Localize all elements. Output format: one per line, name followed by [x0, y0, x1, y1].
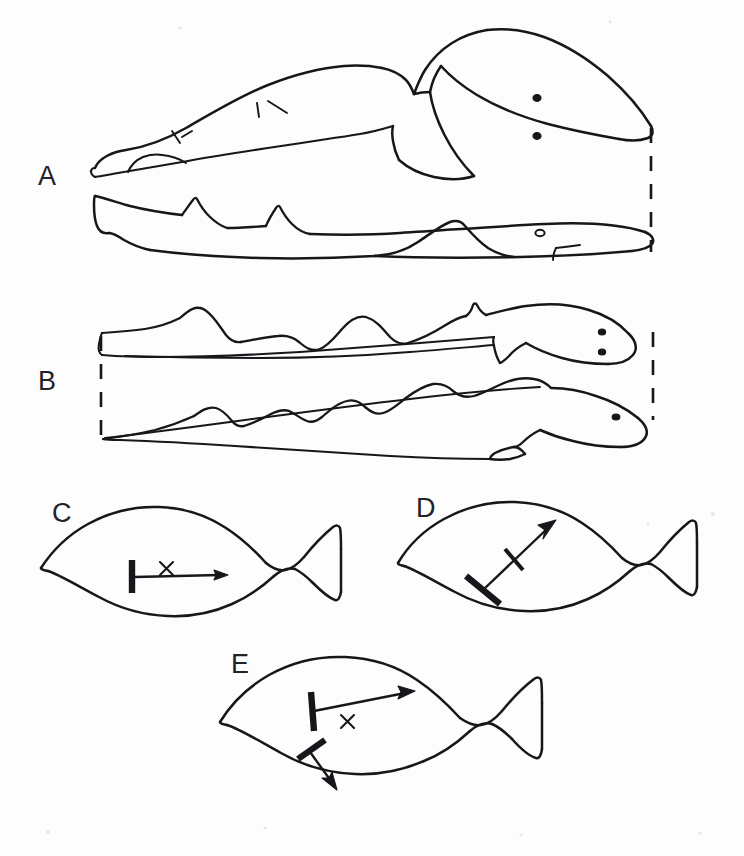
force-vector-horizontal: [135, 570, 228, 580]
fish-body-e: [220, 657, 542, 774]
shark-upper: [91, 29, 653, 179]
fish-lower-b: [103, 378, 647, 460]
panel-b: B: [38, 304, 653, 460]
fish-body-c: [41, 507, 341, 616]
panel-d: D: [398, 493, 697, 611]
panel-label-b: B: [38, 366, 57, 396]
fish-body-d: [398, 502, 697, 611]
shark-upper-spot-2: [533, 133, 541, 140]
center-of-mass-marker: [341, 715, 354, 728]
figure-canvas: A: [0, 0, 744, 856]
panel-a: A: [38, 29, 653, 260]
shark-upper-spot-1: [533, 95, 541, 102]
panel-label-c: C: [52, 498, 72, 528]
panel-label-a: A: [38, 161, 57, 191]
pelvic-fin-bar: [298, 740, 325, 759]
fish-lower-b-eye: [612, 414, 620, 420]
panel-e: E: [220, 649, 542, 790]
force-vector-pectoral-up: [314, 686, 415, 711]
panel-label-e: E: [231, 649, 250, 679]
force-vector-oblique-up: [483, 520, 556, 590]
panel-label-d: D: [416, 493, 436, 523]
figure-root: A: [0, 0, 744, 856]
panel-c: C: [41, 498, 341, 616]
center-of-mass-marker: [160, 562, 173, 575]
shark-lower: [94, 196, 653, 260]
scan-speckles: [46, 21, 715, 837]
fish-upper-b: [99, 304, 636, 365]
shark-lower-eye: [535, 230, 544, 236]
fish-upper-b-eye-1: [598, 329, 605, 335]
fish-upper-b-eye-2: [598, 349, 605, 355]
